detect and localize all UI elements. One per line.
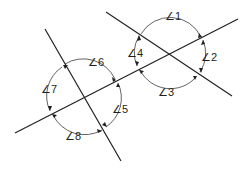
angle-label-7: ∠7: [41, 83, 57, 95]
lower-left-line: [45, 29, 121, 161]
angle-label-1: ∠1: [165, 10, 181, 22]
angle-label-5: ∠5: [112, 103, 128, 115]
angle-label-6: ∠6: [88, 56, 104, 68]
angle-label-2: ∠2: [201, 51, 217, 63]
arrowhead: [135, 61, 139, 66]
angle-label-4: ∠4: [127, 47, 143, 59]
angle-label-3: ∠3: [158, 86, 174, 98]
arrowhead: [199, 68, 203, 73]
arrowhead: [116, 83, 120, 87]
arrowhead: [139, 70, 144, 74]
angle-diagram: ∠1 ∠2 ∠3 ∠4 ∠5 ∠6 ∠7 ∠8: [0, 0, 246, 171]
arrowhead: [102, 122, 107, 127]
arrowhead: [52, 114, 57, 118]
angle-label-8: ∠8: [65, 130, 81, 142]
